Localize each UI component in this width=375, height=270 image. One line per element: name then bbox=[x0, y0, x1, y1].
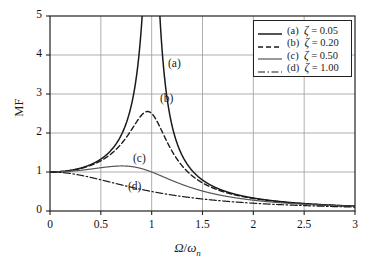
legend-item-b: (b) ζ = 0.20 bbox=[257, 37, 347, 50]
y-axis-title: MF bbox=[12, 98, 27, 116]
x-tick-label: 0.5 bbox=[85, 218, 117, 230]
x-tick-label: 0 bbox=[34, 218, 66, 230]
curve-tag-c: (c) bbox=[133, 152, 146, 164]
y-tick-label: 5 bbox=[20, 8, 42, 20]
x-tick-label: 3 bbox=[339, 218, 371, 230]
curve-tag-d: (d) bbox=[128, 180, 141, 192]
legend-label: (b) ζ = 0.20 bbox=[287, 37, 339, 48]
omega-capital-symbol: Ω bbox=[174, 240, 183, 255]
subscript-n: n bbox=[196, 248, 201, 258]
x-axis-title: Ω/ωn bbox=[0, 240, 375, 258]
chart-figure: MF Ω/ωn 01234500.511.522.53 (a) ζ = 0.05… bbox=[0, 0, 375, 270]
y-tick-label: 4 bbox=[20, 47, 42, 59]
legend-item-c: (c) ζ = 0.50 bbox=[257, 49, 347, 62]
omega-lower-symbol: ω bbox=[187, 240, 196, 255]
legend-box: (a) ζ = 0.05(b) ζ = 0.20(c) ζ = 0.50(d) … bbox=[253, 20, 352, 77]
y-tick-label: 3 bbox=[20, 86, 42, 98]
legend-item-d: (d) ζ = 1.00 bbox=[257, 62, 347, 75]
legend-label: (a) ζ = 0.05 bbox=[287, 25, 338, 36]
y-tick-label: 1 bbox=[20, 164, 42, 176]
legend-label: (c) ζ = 0.50 bbox=[287, 50, 338, 61]
curve-a bbox=[50, 13, 142, 172]
legend-line-swatch bbox=[257, 50, 283, 60]
legend-item-a: (a) ζ = 0.05 bbox=[257, 24, 347, 37]
y-tick-label: 0 bbox=[20, 203, 42, 215]
legend-line-swatch bbox=[257, 63, 283, 73]
x-tick-label: 1 bbox=[136, 218, 168, 230]
curve-tag-a: (a) bbox=[168, 57, 181, 69]
y-tick-label: 2 bbox=[20, 125, 42, 137]
legend-label: (d) ζ = 1.00 bbox=[287, 62, 339, 73]
curve-tag-b: (b) bbox=[160, 92, 173, 104]
legend-line-swatch bbox=[257, 25, 283, 35]
x-tick-label: 1.5 bbox=[187, 218, 219, 230]
x-tick-label: 2 bbox=[237, 218, 269, 230]
legend-line-swatch bbox=[257, 38, 283, 48]
x-tick-label: 2.5 bbox=[288, 218, 320, 230]
